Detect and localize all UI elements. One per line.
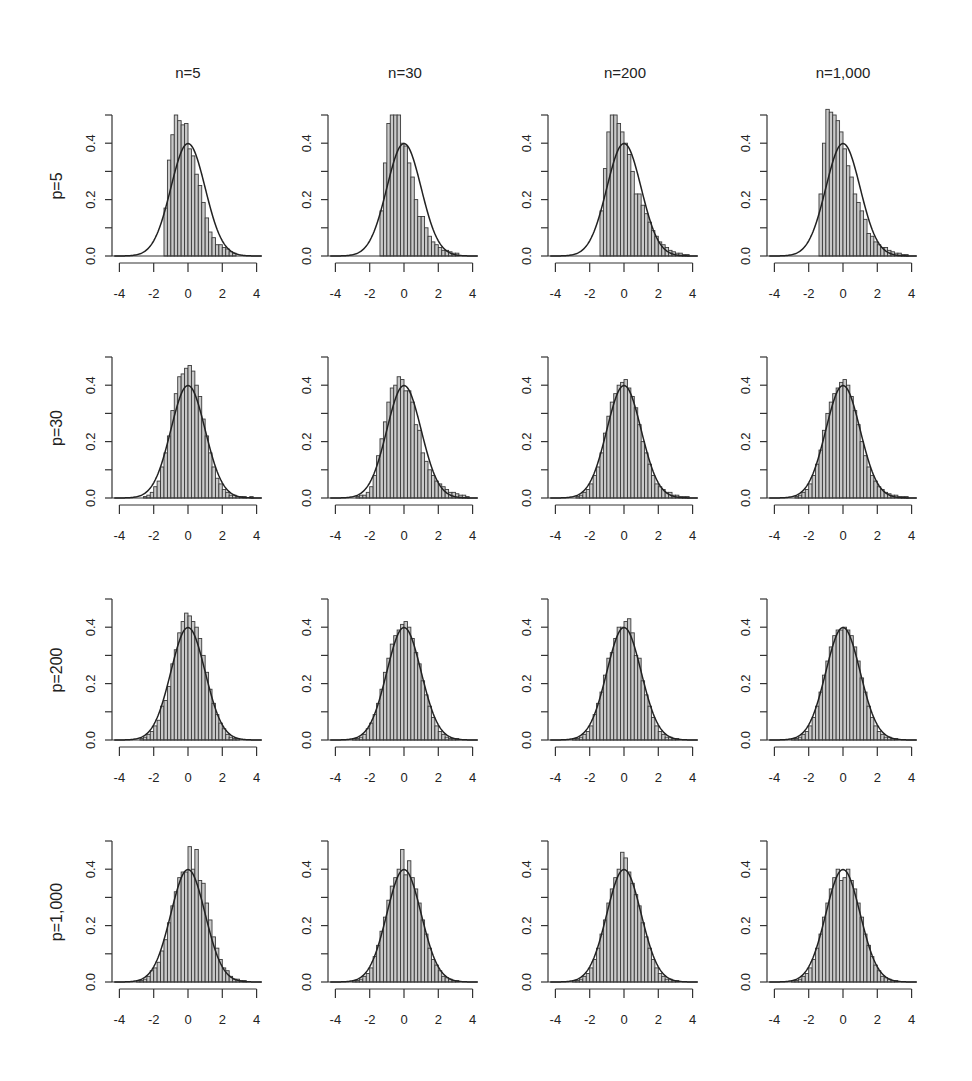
histogram-bar (174, 115, 177, 256)
histogram-bar (836, 630, 839, 740)
histogram-bar (435, 481, 438, 498)
histogram-bar (853, 194, 856, 256)
x-tick-label: -4 (114, 528, 126, 543)
y-tick-label: 0.4 (83, 134, 98, 152)
histogram-bar (641, 681, 644, 740)
histogram-bar (215, 478, 218, 498)
histogram-bar (387, 123, 390, 256)
x-tick-label: -4 (114, 286, 126, 301)
histogram-bar (829, 112, 832, 256)
histogram-bar (850, 396, 853, 498)
x-tick-label: -2 (148, 1012, 160, 1027)
x-tick-label: 4 (253, 1012, 260, 1027)
histogram-bar (161, 706, 164, 740)
histogram-bar (414, 425, 417, 498)
histogram-bar (826, 661, 829, 740)
y-tick-label: 0.2 (738, 917, 753, 935)
histogram-bar (418, 217, 421, 256)
histogram-bar (627, 872, 630, 982)
y-tick-label: 0.0 (738, 973, 753, 991)
histogram-bar (150, 732, 153, 740)
histogram-bar (363, 976, 366, 982)
x-tick-label: -2 (584, 286, 596, 301)
x-tick-label: 2 (874, 770, 881, 785)
x-tick-label: 0 (620, 286, 627, 301)
histogram-bar (645, 937, 648, 982)
histogram-bar (826, 903, 829, 982)
histogram-panel-p200-n30: 0.00.20.4-4-2024 (299, 599, 478, 785)
histogram-bar (805, 974, 808, 982)
histogram-bar (373, 475, 376, 498)
histogram-bar (843, 627, 846, 740)
histogram-bar (171, 664, 174, 740)
y-tick-label: 0.0 (519, 247, 534, 265)
histogram-bar (411, 638, 414, 740)
histogram-bar (191, 156, 194, 256)
histogram-bar (631, 633, 634, 740)
x-tick-label: -4 (114, 770, 126, 785)
histogram-bar (651, 717, 654, 740)
y-tick-label: 0.2 (83, 675, 98, 693)
histogram-bar (662, 976, 665, 982)
histogram-bar (624, 622, 627, 740)
histogram-bar (864, 692, 867, 740)
histogram-bar (418, 430, 421, 498)
y-tick-label: 0.4 (299, 134, 314, 152)
x-tick-label: 4 (469, 528, 476, 543)
x-tick-label: 2 (874, 528, 881, 543)
histogram-bar (222, 490, 225, 498)
histogram-bar (870, 236, 873, 256)
histogram-bar (219, 484, 222, 498)
x-tick-label: 0 (400, 770, 407, 785)
histogram-bar (833, 115, 836, 256)
row-title-p5: p=5 (48, 172, 65, 199)
y-tick-label: 0.0 (738, 489, 753, 507)
histogram-bar (394, 636, 397, 740)
histogram-bar (425, 934, 428, 982)
histogram-bar (627, 154, 630, 256)
x-tick-label: -4 (114, 1012, 126, 1027)
histogram-bar (397, 377, 400, 498)
x-tick-label: -2 (803, 286, 815, 301)
histogram-bar (645, 453, 648, 498)
x-tick-label: 4 (469, 770, 476, 785)
x-tick-label: 4 (253, 770, 260, 785)
histogram-bar (603, 920, 606, 982)
x-tick-label: 2 (655, 1012, 662, 1027)
histogram-bar (648, 222, 651, 256)
y-tick-label: 0.4 (299, 860, 314, 878)
histogram-grid-figure: n=5 n=30 n=200 n=1,000 p=5 p=30 p=200 p=… (0, 0, 972, 1081)
y-tick-label: 0.0 (519, 489, 534, 507)
histogram-bar (147, 734, 150, 740)
histogram-bar (624, 858, 627, 982)
x-tick-label: -2 (584, 1012, 596, 1027)
y-tick-label: 0.2 (299, 433, 314, 451)
histogram-panel-p5-n5: 0.00.20.4-4-2024 (83, 115, 262, 301)
x-tick-label: 4 (253, 528, 260, 543)
histogram-bar (648, 706, 651, 740)
histogram-bar (394, 878, 397, 982)
x-tick-label: -4 (769, 770, 781, 785)
histogram-bar (167, 160, 170, 256)
histogram-bar (864, 934, 867, 982)
histogram-bar (816, 948, 819, 982)
histogram-bar (583, 492, 586, 498)
x-tick-label: 0 (620, 770, 627, 785)
histogram-bar (370, 723, 373, 740)
histogram-bar (874, 242, 877, 256)
histogram-panel-p30-n5: 0.00.20.4-4-2024 (83, 357, 262, 543)
histogram-bar (627, 619, 630, 740)
histogram-bar (414, 200, 417, 256)
histogram-bar (431, 242, 434, 256)
histogram-bar (404, 146, 407, 256)
histogram-bar (212, 467, 215, 498)
x-tick-label: 2 (219, 770, 226, 785)
histogram-bar (850, 880, 853, 982)
histogram-bar (634, 655, 637, 740)
x-tick-label: -2 (584, 528, 596, 543)
histogram-bar (867, 706, 870, 740)
histogram-bar (401, 624, 404, 740)
y-tick-label: 0.4 (738, 134, 753, 152)
y-tick-label: 0.2 (299, 917, 314, 935)
histogram-bar (651, 959, 654, 982)
